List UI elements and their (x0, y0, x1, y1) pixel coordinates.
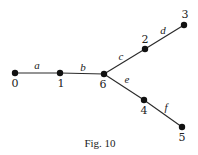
edge-c (104, 49, 145, 74)
node-label-5: 5 (179, 131, 186, 144)
node-3 (181, 22, 187, 28)
node-label-2: 2 (142, 33, 149, 46)
edges (15, 25, 184, 127)
edge-label-f: f (164, 101, 169, 113)
tree-diagram: a b c d e f 0 1 6 2 3 4 5 Fig. 10 (0, 0, 198, 155)
edge-label-e: e (125, 73, 130, 85)
node-label-1: 1 (58, 77, 65, 90)
node-6 (101, 71, 107, 77)
node-5 (179, 124, 185, 130)
node-2 (142, 46, 148, 52)
figure-caption: Fig. 10 (84, 137, 116, 149)
node-label-6: 6 (100, 78, 107, 91)
node-0 (12, 70, 18, 76)
node-4 (141, 97, 147, 103)
nodes (12, 22, 187, 130)
edge-labels: a b c d e f (34, 24, 169, 113)
node-label-4: 4 (141, 104, 148, 117)
node-label-3: 3 (182, 8, 189, 21)
edge-b (60, 73, 104, 74)
node-label-0: 0 (12, 77, 19, 90)
node-1 (57, 70, 63, 76)
edge-label-a: a (34, 59, 40, 71)
edge-label-b: b (80, 61, 86, 73)
edge-f (144, 100, 182, 127)
edge-label-d: d (160, 24, 166, 36)
edge-label-c: c (119, 50, 124, 62)
